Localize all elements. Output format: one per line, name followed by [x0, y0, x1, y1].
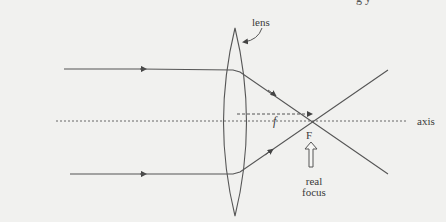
axis-label: axis: [417, 116, 435, 127]
focus-point-label: F: [306, 130, 312, 141]
cut-off-title-text: g y: [356, 0, 371, 4]
focal-length-label: f: [273, 116, 276, 127]
ray-diagram: [0, 0, 446, 222]
real-focus-label: real focus: [299, 176, 329, 198]
lens-shape: [224, 28, 247, 216]
real-focus-arrow: [305, 142, 317, 167]
lower-ray-arrow: [265, 150, 272, 155]
lower-ray-path: [140, 70, 388, 174]
lens-pointer-arrow: [244, 28, 262, 42]
lens-label: lens: [252, 17, 270, 28]
real-focus-label-line2: focus: [299, 187, 329, 198]
